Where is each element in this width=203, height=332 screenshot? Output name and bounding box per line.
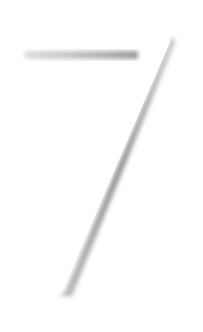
canvas	[0, 0, 203, 332]
seven-bar-shadow	[25, 51, 138, 59]
seven-glyph-icon	[0, 0, 203, 332]
seven-glyph-face	[22, 32, 170, 292]
seven-stroke-shadow	[60, 38, 176, 296]
